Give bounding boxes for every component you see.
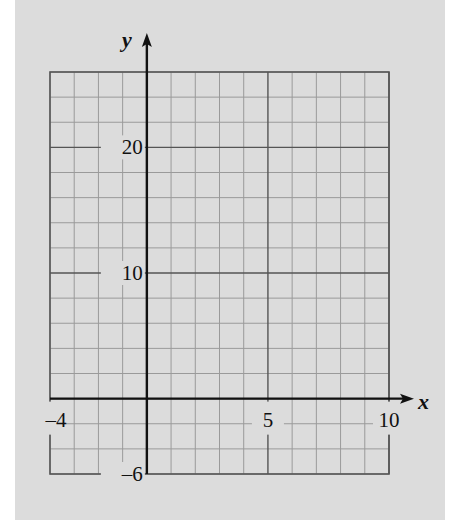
panel-background: [15, 0, 445, 520]
tick-label: 20: [122, 135, 143, 159]
tick-label: 10: [122, 261, 143, 285]
tick-label: 5: [263, 408, 274, 432]
x-axis-label: x: [417, 389, 429, 414]
tick-label: –6: [121, 462, 143, 486]
graph-paper-chart: 2010–6–4510 x y: [0, 0, 455, 526]
tick-label: 10: [379, 408, 400, 432]
tick-label: –4: [45, 408, 68, 432]
